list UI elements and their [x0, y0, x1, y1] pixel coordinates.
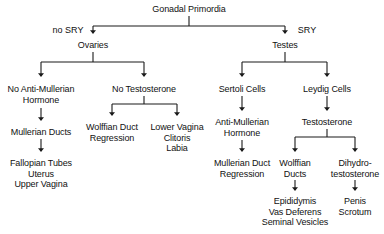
node-fallopian-tubes-uterus-upper-vagina: Fallopian Tubes Uterus Upper Vagina — [10, 158, 72, 190]
node-dihydrotestosterone: Dihydro- testosterone — [331, 158, 379, 179]
node-no-testosterone: No Testosterone — [112, 84, 176, 95]
node-gonadal-primordia: Gonadal Primordia — [152, 4, 225, 15]
node-epididymis-vas-deferens-seminal-vesicles: Epididymis Vas Deferens Seminal Vesicles — [262, 196, 328, 228]
node-anti-mullerian-hormone: Anti-Mullerian Hormone — [215, 117, 269, 138]
edge-label-no-sry: no SRY — [53, 25, 84, 36]
node-wolffian-duct-regression: Wolffian Duct Regression — [86, 122, 138, 143]
node-wolffian-ducts: Wolffian Ducts — [279, 158, 310, 179]
node-sertoli-cells: Sertoli Cells — [219, 84, 266, 95]
node-ovaries: Ovaries — [78, 40, 108, 51]
node-testosterone: Testosterone — [302, 117, 352, 128]
node-no-anti-mullerian-hormone: No Anti-Mullerian Hormone — [8, 84, 75, 105]
node-lower-vagina-clitoris-labia: Lower Vagina Clitoris Labia — [150, 122, 203, 154]
node-leydig-cells: Leydig Cells — [303, 84, 351, 95]
flowchart-canvas: Gonadal Primordia no SRY SRY Ovaries Tes… — [0, 0, 384, 234]
node-penis-scrotum: Penis Scrotum — [339, 196, 372, 217]
node-mullerian-duct-regression: Mullerian Duct Regression — [214, 158, 270, 179]
node-testes: Testes — [272, 40, 297, 51]
node-mullerian-ducts: Mullerian Ducts — [11, 127, 72, 138]
edge-label-sry: SRY — [298, 25, 316, 36]
